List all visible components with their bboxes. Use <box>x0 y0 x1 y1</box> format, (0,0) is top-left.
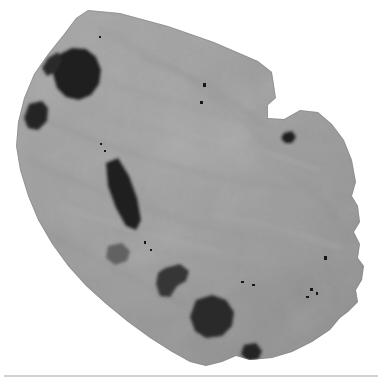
specimen-scan-figure: Irregular polygonal grayscale scan of a … <box>0 0 382 383</box>
specimen-scan-canvas <box>0 0 382 383</box>
image-viewport: Irregular polygonal grayscale scan of a … <box>0 0 382 383</box>
bottom-divider <box>4 375 378 377</box>
